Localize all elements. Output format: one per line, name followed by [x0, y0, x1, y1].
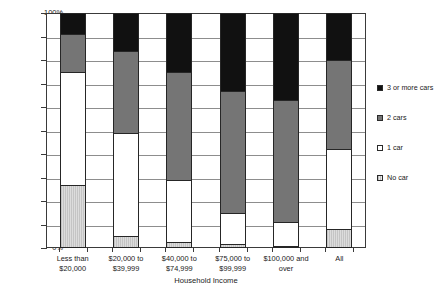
- bar-segment[interactable]: [326, 60, 352, 149]
- bar-segment[interactable]: [166, 13, 192, 72]
- x-axis-title: Household Income: [0, 276, 412, 285]
- bar-segment[interactable]: [326, 149, 352, 229]
- y-axis-tick: [41, 248, 46, 249]
- legend-label: 1 car: [387, 143, 403, 152]
- x-axis-tick: [325, 248, 326, 252]
- bar-segment[interactable]: [113, 236, 139, 248]
- bar-segment[interactable]: [60, 13, 86, 34]
- stacked-bar[interactable]: [326, 13, 352, 248]
- bar-segment[interactable]: [220, 244, 246, 248]
- legend-item[interactable]: 2 cars: [377, 114, 438, 144]
- bar-segment[interactable]: [166, 72, 192, 180]
- bar-segment[interactable]: [326, 229, 352, 248]
- x-axis-category-label-line: All: [305, 254, 374, 264]
- x-axis-tick: [59, 248, 60, 252]
- x-axis-category-label: All: [305, 254, 374, 264]
- black-swatch: [377, 85, 383, 91]
- light-gray-swatch: [377, 175, 383, 181]
- bar-segment[interactable]: [273, 100, 299, 222]
- bar-segment[interactable]: [113, 51, 139, 133]
- stacked-bar[interactable]: [60, 13, 86, 248]
- bar-segment[interactable]: [166, 242, 192, 248]
- x-axis-tick: [247, 248, 248, 252]
- x-axis-tick: [165, 248, 166, 252]
- x-axis-tick: [140, 248, 141, 252]
- stacked-bar[interactable]: [113, 13, 139, 248]
- bar-segment[interactable]: [60, 185, 86, 248]
- x-axis-tick: [193, 248, 194, 252]
- x-axis-tick: [272, 248, 273, 252]
- bar-series-container: [46, 13, 366, 248]
- bar-segment[interactable]: [220, 13, 246, 91]
- bar-group: [259, 13, 312, 248]
- white-swatch: [377, 145, 383, 151]
- stacked-bar[interactable]: [166, 13, 192, 248]
- x-axis-category-label-line: over: [251, 264, 320, 274]
- legend-item[interactable]: 3 or more cars: [377, 84, 438, 114]
- bar-group: [46, 13, 99, 248]
- bar-segment[interactable]: [273, 246, 299, 248]
- bar-segment[interactable]: [220, 91, 246, 213]
- bar-segment[interactable]: [166, 180, 192, 242]
- bar-group: [206, 13, 259, 248]
- bar-segment[interactable]: [220, 213, 246, 245]
- bar-segment[interactable]: [60, 72, 86, 185]
- legend-label: 3 or more cars: [387, 83, 433, 92]
- bar-group: [99, 13, 152, 248]
- stacked-bar[interactable]: [220, 13, 246, 248]
- bar-segment[interactable]: [113, 133, 139, 236]
- bar-segment[interactable]: [326, 13, 352, 60]
- x-axis-tick: [219, 248, 220, 252]
- dark-gray-swatch: [377, 115, 383, 121]
- bar-segment[interactable]: [273, 13, 299, 100]
- legend-item[interactable]: 1 car: [377, 144, 438, 174]
- bar-group: [313, 13, 366, 248]
- x-axis-tick: [300, 248, 301, 252]
- legend: 3 or more cars2 cars1 carNo car: [377, 84, 438, 204]
- bar-segment[interactable]: [60, 34, 86, 72]
- x-axis-tick: [112, 248, 113, 252]
- x-axis-tick: [87, 248, 88, 252]
- bar-segment[interactable]: [113, 13, 139, 51]
- stacked-bar[interactable]: [273, 13, 299, 248]
- x-axis-tick: [353, 248, 354, 252]
- bar-segment[interactable]: [273, 222, 299, 246]
- legend-label: 2 cars: [387, 113, 407, 122]
- bar-group: [153, 13, 206, 248]
- legend-item[interactable]: No car: [377, 174, 438, 204]
- legend-label: No car: [387, 173, 408, 182]
- stacked-bar-chart: 0%10%20%30%40%50%60%70%80%90%100% Less t…: [0, 0, 438, 291]
